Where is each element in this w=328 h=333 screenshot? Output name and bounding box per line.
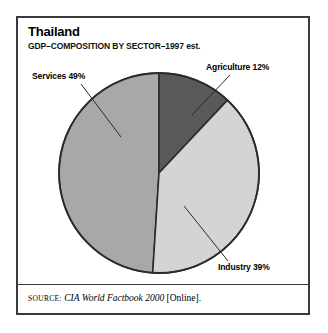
infographic-card: Thailand GDP–COMPOSITION BY SECTOR–1997 …: [16, 16, 310, 315]
source-suffix: [Online].: [167, 293, 202, 303]
source-prefix: SOURCE:: [28, 294, 62, 303]
source-divider: [18, 284, 308, 285]
slice-label-agriculture: Agriculture 12%: [206, 62, 269, 72]
slice-label-industry: Industry 39%: [218, 262, 270, 272]
pie-slice-services[interactable]: [59, 73, 159, 273]
source-work: CIA World Factbook 2000: [64, 293, 164, 303]
slice-label-services: Services 49%: [32, 71, 85, 81]
source-note: SOURCE: CIA World Factbook 2000 [Online]…: [28, 293, 201, 303]
